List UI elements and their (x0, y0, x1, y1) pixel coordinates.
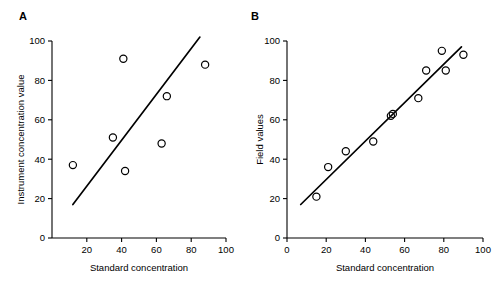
x-tick-label: 20 (82, 244, 93, 255)
data-point (325, 163, 332, 170)
x-axis-title: Standard concentration (90, 262, 188, 273)
data-point (202, 61, 209, 68)
x-axis-title: Standard concentration (336, 262, 434, 273)
data-point (442, 67, 449, 74)
y-tick-label: 0 (275, 232, 280, 243)
y-tick-label: 20 (34, 193, 45, 204)
x-tick-label: 80 (186, 244, 197, 255)
data-point (313, 193, 320, 200)
y-tick-label: 80 (34, 75, 45, 86)
data-point (370, 138, 377, 145)
panel-b-plot: 020406080100020406080100Standard concent… (249, 0, 498, 290)
panel-a-plot: 02040608010020406080100Standard concentr… (0, 0, 249, 290)
y-tick-label: 100 (264, 35, 280, 46)
x-tick-label: 0 (284, 244, 289, 255)
x-tick-label: 80 (439, 244, 450, 255)
data-point (158, 140, 165, 147)
data-point (460, 51, 467, 58)
y-tick-label: 100 (29, 35, 45, 46)
data-point (423, 67, 430, 74)
x-tick-label: 20 (321, 244, 332, 255)
data-point (163, 93, 170, 100)
regression-line (73, 37, 200, 204)
data-point (109, 134, 116, 141)
x-tick-label: 60 (151, 244, 162, 255)
y-axis-title: Field values (254, 114, 265, 165)
data-point (415, 95, 422, 102)
y-tick-label: 40 (269, 154, 280, 165)
y-tick-label: 60 (34, 114, 45, 125)
data-point (342, 148, 349, 155)
y-axis-title: Instrument concentration value (15, 75, 26, 205)
data-point (121, 167, 128, 174)
x-tick-label: 40 (360, 244, 371, 255)
y-tick-label: 60 (269, 114, 280, 125)
panel-b: B 020406080100020406080100Standard conce… (249, 0, 498, 290)
x-tick-label: 100 (218, 244, 234, 255)
x-tick-label: 60 (399, 244, 410, 255)
figure-container: A 02040608010020406080100Standard concen… (0, 0, 498, 290)
data-point (438, 47, 445, 54)
data-point (120, 55, 127, 62)
data-point (69, 162, 76, 169)
x-tick-label: 100 (475, 244, 491, 255)
x-tick-label: 40 (116, 244, 127, 255)
y-tick-label: 80 (269, 75, 280, 86)
panel-a: A 02040608010020406080100Standard concen… (0, 0, 249, 290)
y-tick-label: 0 (40, 232, 45, 243)
y-tick-label: 40 (34, 154, 45, 165)
y-tick-label: 20 (269, 193, 280, 204)
regression-line (301, 47, 462, 205)
